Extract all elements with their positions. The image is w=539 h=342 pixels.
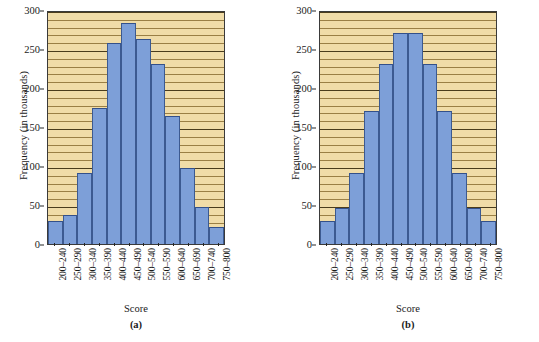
y-tick-label: 100 — [296, 162, 312, 173]
histogram-bar — [136, 39, 151, 244]
y-tick-mark — [312, 89, 316, 90]
x-tick-mark — [430, 243, 431, 246]
x-label-slot: 650–690 — [180, 246, 195, 302]
x-tick-mark — [143, 243, 144, 246]
histogram-bar — [437, 111, 452, 244]
x-label-slot: 750–800 — [210, 246, 225, 302]
y-tick-mark — [40, 245, 44, 246]
y-tick-mark — [312, 11, 316, 12]
x-label-slot: 500–540 — [136, 246, 151, 302]
x-label-slot: 550–590 — [151, 246, 166, 302]
y-tick-mark — [312, 245, 316, 246]
y-tick-label: 150 — [296, 123, 312, 134]
x-tick-mark — [415, 243, 416, 246]
y-tick-mark — [312, 206, 316, 207]
histogram-bar — [335, 208, 350, 244]
y-axis-ticks-a: 050100150200250300 — [0, 0, 44, 342]
chart-panel-b: Frequency (in thousands) 050100150200250… — [269, 0, 538, 342]
x-tick-mark — [69, 243, 70, 246]
x-tick-mark — [445, 243, 446, 246]
y-tick-mark — [312, 128, 316, 129]
y-tick-mark — [312, 167, 316, 168]
x-label-slot: 400–440 — [106, 246, 121, 302]
x-label-slot: 700–740 — [195, 246, 210, 302]
y-tick-label: 300 — [24, 6, 40, 17]
x-label-slot: 450–490 — [393, 246, 408, 302]
histogram-bar — [452, 173, 467, 244]
chart-panel-a: Frequency (in thousands) 050100150200250… — [0, 0, 269, 342]
x-tick-label: 750–800 — [494, 248, 504, 281]
x-tick-mark — [490, 243, 491, 246]
histogram-bar — [165, 116, 180, 244]
histogram-bar — [423, 64, 438, 244]
x-tick-label: 750–800 — [222, 248, 232, 281]
x-tick-mark — [386, 243, 387, 246]
y-tick-label: 200 — [24, 84, 40, 95]
y-tick-label: 100 — [24, 162, 40, 173]
y-axis-ticks-b: 050100150200250300 — [272, 0, 316, 342]
x-tick-mark — [203, 243, 204, 246]
x-label-slot: 550–590 — [423, 246, 438, 302]
x-tick-mark — [356, 243, 357, 246]
x-label-slot: 600–640 — [438, 246, 453, 302]
x-label-slot: 350–390 — [363, 246, 378, 302]
x-tick-mark — [84, 243, 85, 246]
x-label-slot: 200–240 — [319, 246, 334, 302]
x-label-slot: 250–290 — [62, 246, 77, 302]
x-label-slot: 700–740 — [467, 246, 482, 302]
histogram-bar — [393, 33, 408, 244]
y-tick-mark — [40, 11, 44, 12]
x-label-slot: 500–540 — [408, 246, 423, 302]
x-tick-mark — [114, 243, 115, 246]
panel-caption-a: (a) — [47, 319, 225, 330]
y-tick-mark — [40, 128, 44, 129]
x-tick-mark — [371, 243, 372, 246]
y-tick-label: 250 — [296, 45, 312, 56]
histogram-bar — [92, 108, 107, 245]
histogram-bar — [77, 173, 92, 244]
y-tick-label: 150 — [24, 123, 40, 134]
x-tick-mark — [129, 243, 130, 246]
histogram-bar — [481, 221, 496, 244]
x-tick-mark — [475, 243, 476, 246]
histogram-bar — [320, 221, 335, 244]
x-tick-mark — [401, 243, 402, 246]
y-tick-label: 50 — [30, 201, 41, 212]
histogram-bar — [349, 173, 364, 244]
histogram-bar — [364, 111, 379, 244]
x-label-slot: 300–340 — [349, 246, 364, 302]
histogram-bar — [195, 207, 210, 244]
y-tick-mark — [40, 50, 44, 51]
x-label-slot: 250–290 — [334, 246, 349, 302]
histogram-bar — [209, 227, 224, 244]
x-tick-mark — [173, 243, 174, 246]
histogram-bar — [467, 208, 482, 244]
plot-area-a — [47, 11, 225, 245]
x-axis-labels-a: 200–240250–290300–340350–390400–440450–4… — [47, 246, 225, 302]
x-tick-mark — [341, 243, 342, 246]
y-tick-mark — [40, 89, 44, 90]
histogram-bar — [107, 43, 122, 244]
x-tick-mark — [218, 243, 219, 246]
x-tick-mark — [158, 243, 159, 246]
x-label-slot: 450–490 — [121, 246, 136, 302]
x-label-slot: 400–440 — [378, 246, 393, 302]
histogram-bar — [121, 23, 136, 244]
y-tick-label: 300 — [296, 6, 312, 17]
x-axis-labels-b: 200–240250–290300–340350–390400–440450–4… — [319, 246, 497, 302]
bars-a — [48, 12, 224, 244]
x-label-slot: 750–800 — [482, 246, 497, 302]
x-tick-mark — [99, 243, 100, 246]
histogram-bar — [151, 64, 166, 244]
x-label-slot: 350–390 — [91, 246, 106, 302]
x-label-slot: 650–690 — [452, 246, 467, 302]
y-tick-mark — [312, 50, 316, 51]
x-tick-mark — [326, 243, 327, 246]
x-axis-title-b: Score — [319, 303, 497, 314]
y-tick-label: 200 — [296, 84, 312, 95]
x-tick-mark — [460, 243, 461, 246]
y-tick-label: 50 — [302, 201, 313, 212]
histogram-figure: Frequency (in thousands) 050100150200250… — [0, 0, 539, 342]
panel-caption-b: (b) — [319, 319, 497, 330]
y-tick-label: 250 — [24, 45, 40, 56]
